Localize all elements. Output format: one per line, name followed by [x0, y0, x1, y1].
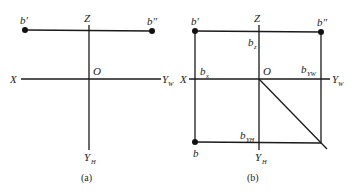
projection-diagram: b′ Z b″ X O Y W Y H (a) b′ Z b″ b z X b … — [0, 0, 351, 194]
a-label-b-prime: b′ — [20, 14, 29, 26]
figure-a — [21, 25, 161, 150]
b-label-yw-sub: W — [338, 80, 344, 87]
b-label-b: b — [193, 147, 199, 159]
b-label-byw-sub: YW — [307, 70, 317, 77]
a-label-yw-sub: W — [168, 80, 174, 87]
b-label-bx-sub: x — [205, 72, 209, 79]
b-label-z: Z — [254, 12, 261, 24]
a-label-z: Z — [84, 12, 91, 24]
a-label-yh-sub: H — [90, 158, 96, 165]
b-diagonal-45 — [259, 79, 327, 149]
b-point-b-dprime — [318, 29, 324, 35]
b-label-bz-sub: z — [253, 43, 257, 50]
a-point-b-prime — [22, 27, 28, 33]
b-label-byh-sub: YH — [246, 136, 255, 143]
a-label-x: X — [9, 73, 18, 85]
b-label-o: O — [263, 65, 271, 77]
b-caption: (b) — [247, 172, 259, 184]
b-point-b-prime — [192, 28, 198, 34]
b-label-x: X — [179, 73, 188, 85]
figure-b — [189, 25, 330, 150]
b-bottom-line — [195, 142, 321, 143]
a-label-o: O — [93, 65, 101, 77]
b-label-b-prime: b′ — [191, 15, 200, 27]
b-point-b — [192, 139, 198, 145]
b-label-yh-sub: H — [261, 158, 267, 165]
b-label-b-dprime: b″ — [317, 16, 328, 28]
a-label-b-dprime: b″ — [147, 15, 158, 27]
b-top-line — [195, 31, 321, 32]
a-caption: (a) — [81, 172, 92, 184]
a-point-b-dprime — [149, 28, 155, 34]
